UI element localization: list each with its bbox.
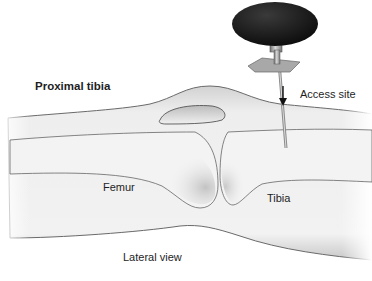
proximal-tibia-illustration: Proximal tibia Access site Femur Tibia L… [0,0,372,281]
view-label: Lateral view [123,251,182,263]
figure-title: Proximal tibia [35,80,110,92]
femur-label: Femur [103,181,135,193]
tibia-label: Tibia [267,192,290,204]
knee-diagram [0,0,372,281]
access-site-label: Access site [300,88,356,100]
intraosseous-needle-icon [232,2,318,46]
